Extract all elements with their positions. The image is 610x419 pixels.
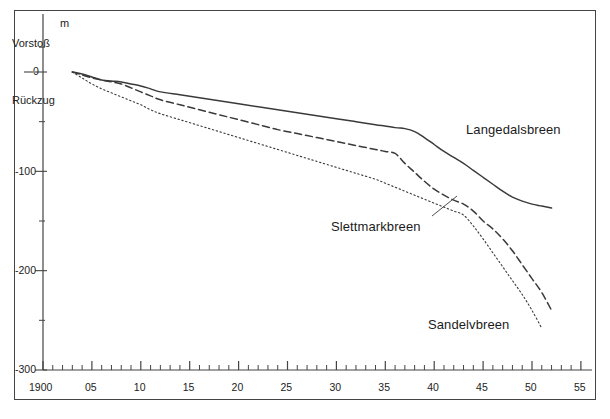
x-tick-label-1900: 1900 — [29, 382, 52, 393]
x-tick-label-20: 20 — [232, 382, 244, 393]
x-tick-label-15: 15 — [183, 382, 195, 393]
chart-canvas — [0, 0, 610, 419]
x-tick-label-05: 05 — [85, 382, 97, 393]
x-tick-label-50: 50 — [525, 382, 537, 393]
chart-root: m Vorstoß Rückzug 0 -100 -200 -300 19000… — [0, 0, 610, 419]
series-path-langedalsbreen — [72, 72, 551, 208]
y-tick-label-0: 0 — [33, 66, 39, 77]
x-tick-label-45: 45 — [476, 382, 488, 393]
y-axis-retreat-label: Rückzug — [12, 95, 55, 106]
x-tick-label-40: 40 — [427, 382, 439, 393]
series-label-langedalsbreen: Langedalsbreen — [466, 122, 561, 137]
x-tick-label-30: 30 — [329, 382, 341, 393]
y-axis-advance-label: Vorstoß — [12, 38, 50, 49]
x-tick-label-55: 55 — [574, 382, 586, 393]
series-label-slettmarkbreen: Slettmarkbreen — [331, 219, 421, 234]
series-layer — [72, 72, 551, 328]
y-tick-label-100: -100 — [15, 166, 36, 177]
x-tick-label-25: 25 — [281, 382, 293, 393]
series-path-slettmarkbreen — [72, 72, 551, 310]
y-tick-label-200: -200 — [15, 265, 36, 276]
y-tick-label-300: -300 — [15, 364, 36, 375]
y-axis-unit-label: m — [60, 18, 69, 29]
leader-line-slettmarkbreen — [432, 196, 457, 216]
series-path-sandelvbreen — [72, 72, 541, 328]
x-tick-label-35: 35 — [378, 382, 390, 393]
series-label-sandelvbreen: Sandelvbreen — [428, 317, 509, 332]
x-tick-label-10: 10 — [134, 382, 146, 393]
